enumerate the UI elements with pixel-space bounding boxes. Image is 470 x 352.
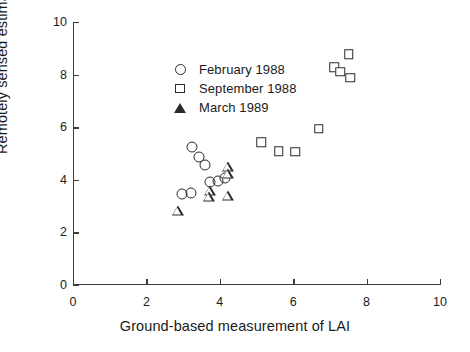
x-tick-label: 8 [363, 296, 370, 309]
x-tick-mark [220, 279, 221, 285]
x-axis-title: Ground-based measurement of LAI [0, 318, 470, 334]
x-tick-label: 0 [70, 296, 77, 309]
x-axis-line [73, 284, 440, 285]
y-tick-mark [73, 75, 79, 76]
x-tick-mark [367, 279, 368, 285]
square-marker [274, 147, 284, 157]
legend-square-icon [169, 79, 191, 98]
y-tick-mark [73, 22, 79, 23]
circle-marker [187, 141, 198, 152]
y-tick-label: 10 [47, 16, 67, 29]
y-axis-line [73, 22, 74, 285]
legend-triangle-icon [169, 98, 191, 117]
x-tick-mark [440, 279, 441, 285]
triangle-marker [203, 191, 215, 201]
legend-circle-icon [169, 60, 191, 79]
square-marker [335, 67, 345, 77]
y-tick-mark [73, 127, 79, 128]
y-tick-label: 8 [47, 68, 67, 81]
y-tick-mark [73, 180, 79, 181]
triangle-marker [222, 169, 234, 179]
square-marker [345, 73, 355, 83]
square-marker [257, 137, 267, 147]
legend-item-label: February 1988 [191, 62, 285, 77]
square-marker [290, 147, 300, 157]
y-tick-label: 4 [47, 174, 67, 187]
legend-item-label: March 1989 [191, 100, 269, 115]
x-tick-label: 6 [290, 296, 297, 309]
y-tick-label: 2 [47, 226, 67, 239]
y-tick-mark [73, 232, 79, 233]
circle-marker [200, 159, 211, 170]
y-tick-label: 0 [47, 279, 67, 292]
y-tick-mark [73, 285, 79, 286]
legend-item[interactable]: February 1988 [169, 60, 297, 79]
y-axis-title: Remotely sensed estimate of LAI [0, 0, 10, 154]
triangle-marker [222, 191, 234, 201]
x-tick-mark [293, 279, 294, 285]
x-tick-label: 10 [433, 296, 447, 309]
square-marker [344, 49, 354, 59]
circle-marker [186, 187, 197, 198]
chart-legend: February 1988September 1988March 1989 [169, 60, 297, 117]
legend-item-label: September 1988 [191, 81, 297, 96]
triangle-marker [174, 103, 186, 113]
x-tick-label: 2 [143, 296, 150, 309]
y-tick-label: 6 [47, 121, 67, 134]
x-tick-mark [146, 279, 147, 285]
legend-item[interactable]: September 1988 [169, 79, 297, 98]
square-marker [175, 84, 185, 94]
scatter-plot-figure: Remotely sensed estimate of LAI Ground-b… [0, 0, 470, 352]
triangle-marker [172, 206, 184, 216]
plot-area: 0246810 0246810 February 1988September 1… [73, 22, 440, 285]
circle-marker [175, 64, 186, 75]
legend-item[interactable]: March 1989 [169, 98, 297, 117]
square-marker [314, 124, 324, 134]
x-tick-label: 4 [216, 296, 223, 309]
